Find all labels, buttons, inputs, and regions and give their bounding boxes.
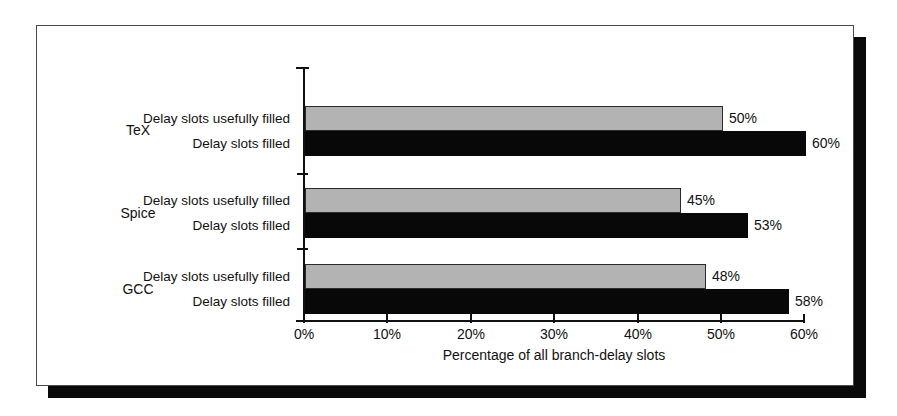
x-tick-label-5: 50% xyxy=(707,326,735,342)
x-tick-label-0: 0% xyxy=(294,326,314,342)
x-tick-6 xyxy=(803,314,805,323)
bar-value-spice-usefully-filled: 45% xyxy=(687,188,715,213)
series-label-gcc-filled: Delay slots filled xyxy=(192,289,290,314)
bar-value-tex-filled: 60% xyxy=(812,131,840,156)
y-axis-group-tick-spice-gcc xyxy=(297,248,308,250)
bar-spice-usefully-filled xyxy=(305,188,681,213)
plot-area: TeX Spice GCC Delay slots usefully fille… xyxy=(37,26,853,385)
x-tick-label-6: 60% xyxy=(790,326,818,342)
x-tick-5 xyxy=(720,314,722,323)
bar-value-tex-usefully-filled: 50% xyxy=(729,106,757,131)
series-label-tex-filled: Delay slots filled xyxy=(192,131,290,156)
x-tick-label-2: 20% xyxy=(457,326,485,342)
series-label-spice-filled: Delay slots filled xyxy=(192,213,290,238)
bar-gcc-filled xyxy=(305,289,789,314)
figure-panel: TeX Spice GCC Delay slots usefully fille… xyxy=(36,25,854,386)
series-label-tex-usefully-filled: Delay slots usefully filled xyxy=(143,106,290,131)
bar-value-gcc-usefully-filled: 48% xyxy=(712,264,740,289)
x-tick-1 xyxy=(386,314,388,323)
series-label-spice-usefully-filled: Delay slots usefully filled xyxy=(143,188,290,213)
series-label-gcc-usefully-filled: Delay slots usefully filled xyxy=(143,264,290,289)
x-tick-2 xyxy=(470,314,472,323)
bar-tex-usefully-filled xyxy=(305,106,723,131)
bar-value-gcc-filled: 58% xyxy=(795,289,823,314)
bar-spice-filled xyxy=(305,213,748,238)
y-axis-top-cap xyxy=(296,67,309,69)
bar-gcc-usefully-filled xyxy=(305,264,706,289)
x-tick-label-1: 10% xyxy=(373,326,401,342)
bar-tex-filled xyxy=(305,131,806,156)
x-tick-0 xyxy=(303,314,305,323)
x-tick-label-4: 40% xyxy=(624,326,652,342)
x-tick-4 xyxy=(637,314,639,323)
x-tick-label-3: 30% xyxy=(540,326,568,342)
y-axis-group-tick-tex-spice xyxy=(297,173,308,175)
x-tick-3 xyxy=(553,314,555,323)
x-axis-title: Percentage of all branch-delay slots xyxy=(303,347,805,363)
bar-value-spice-filled: 53% xyxy=(754,213,782,238)
